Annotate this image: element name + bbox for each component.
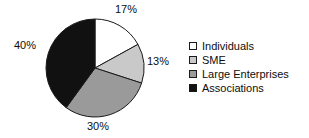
slice-label-sme: 13% bbox=[147, 55, 169, 67]
legend-item-label: Individuals bbox=[202, 40, 254, 52]
slice-label-individuals: 17% bbox=[115, 3, 137, 15]
pie-svg bbox=[0, 0, 185, 138]
pie-chart-figure: 17% 13% 30% 40% IndividualsSMELarge Ente… bbox=[0, 0, 309, 138]
legend-swatch-icon bbox=[189, 42, 197, 50]
legend-swatch-icon bbox=[189, 84, 197, 92]
legend-swatch-icon bbox=[189, 70, 197, 78]
legend-item-individuals: Individuals bbox=[189, 39, 307, 53]
legend-swatch-icon bbox=[189, 56, 197, 64]
slice-label-associations: 40% bbox=[14, 39, 36, 51]
slice-label-large-enterprises: 30% bbox=[87, 120, 109, 132]
legend-item-label: SME bbox=[202, 54, 226, 66]
legend-item-associations: Associations bbox=[189, 81, 307, 95]
pie-plot-area: 17% 13% 30% 40% bbox=[0, 0, 185, 138]
legend-item-large-enterprises: Large Enterprises bbox=[189, 67, 307, 81]
chart-legend: IndividualsSMELarge EnterprisesAssociati… bbox=[189, 39, 307, 95]
legend-item-label: Large Enterprises bbox=[202, 68, 289, 80]
legend-item-label: Associations bbox=[202, 82, 264, 94]
pie-slice-group bbox=[46, 19, 144, 117]
legend-item-sme: SME bbox=[189, 53, 307, 67]
